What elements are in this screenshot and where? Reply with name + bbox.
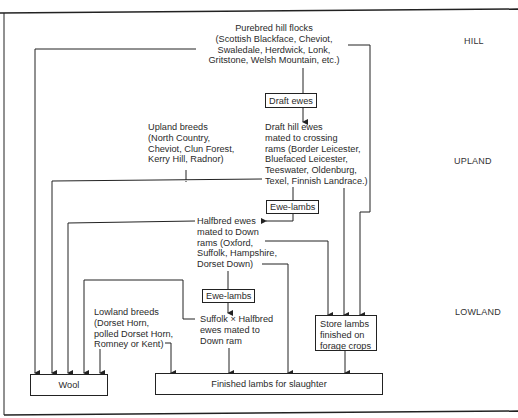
node-store-lambs: Store lambs finished on forage crops bbox=[315, 315, 377, 351]
node-ewe-lambs-upper: Ewe-lambs bbox=[266, 200, 319, 214]
node-finished-lambs: Finished lambs for slaughter bbox=[155, 373, 383, 395]
node-lowland-breeds: Lowland breeds (Dorset Horn, polled Dors… bbox=[94, 307, 173, 350]
zone-label-hill: HILL bbox=[464, 36, 484, 46]
node-wool: Wool bbox=[30, 374, 108, 396]
node-halfbred-ewes: Halfbred ewes mated to Down rams (Oxford… bbox=[197, 216, 277, 270]
node-purebred-hill-flocks: Purebred hill flocks (Scottish Blackface… bbox=[196, 23, 352, 66]
node-draft-hill-ewes: Draft hill ewes mated to crossing rams (… bbox=[265, 122, 368, 187]
node-upland-breeds: Upland breeds (North Country, Cheviot, C… bbox=[148, 122, 234, 165]
frame-bottom-border bbox=[4, 411, 518, 415]
zone-label-upland: UPLAND bbox=[454, 156, 492, 166]
frame-top-border bbox=[0, 9, 518, 13]
zone-label-lowland: LOWLAND bbox=[455, 307, 501, 317]
connector-halfbred-to-wool bbox=[68, 221, 195, 373]
node-draft-ewes: Draft ewes bbox=[265, 93, 317, 108]
node-suffolk-halfbred: Suffolk × Halfbred ewes mated to Down ra… bbox=[200, 314, 273, 346]
node-ewe-lambs-lower: Ewe-lambs bbox=[202, 289, 255, 303]
